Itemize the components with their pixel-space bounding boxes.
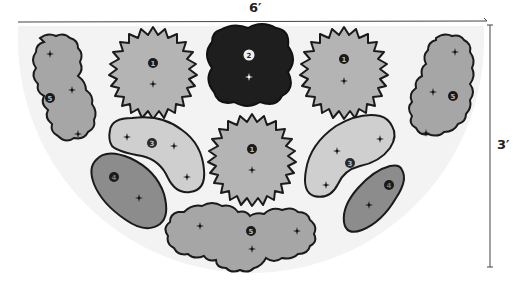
plant-number-3: 3 xyxy=(150,140,155,148)
plant-number-5: 5 xyxy=(249,228,254,236)
plant-number-1: 1 xyxy=(342,56,347,64)
plant-number-4: 4 xyxy=(112,174,117,182)
width-dimension-line xyxy=(18,21,487,22)
plant-number-3: 3 xyxy=(348,160,353,168)
plant-number-1: 1 xyxy=(151,60,156,68)
plant-number-5: 5 xyxy=(48,95,53,103)
plant-number-2: 2 xyxy=(247,52,252,60)
plant-number-5: 5 xyxy=(451,93,456,101)
planting-plan-diagram: 5 5 1 1 1 2 xyxy=(0,0,519,282)
plant-number-1: 1 xyxy=(250,146,255,154)
plant-2-center: 2 xyxy=(207,24,293,106)
plant-number-4: 4 xyxy=(387,182,392,190)
